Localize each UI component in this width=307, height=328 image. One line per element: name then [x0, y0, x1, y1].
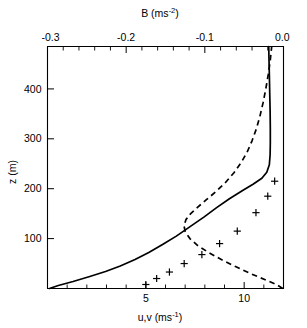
data-marker-plus	[153, 275, 160, 282]
data-marker-plus	[264, 193, 271, 200]
data-series-group	[49, 47, 282, 289]
axes-frame	[48, 47, 284, 289]
y-axis-tick-label: 400	[24, 83, 42, 95]
y-axis-title: z (m)	[6, 160, 18, 184]
data-marker-plus	[271, 178, 278, 185]
top-axis-tick-label: -0.3	[42, 31, 60, 43]
y-axis-tick-labels: 100200300400	[24, 83, 42, 245]
top-axis-tick-label: -0.1	[196, 31, 214, 43]
wind-buoyancy-profile-chart: -0.3-0.2-0.10.0 510 100200300400 B (ms-2…	[0, 0, 307, 328]
top-axis-ticks	[48, 47, 284, 54]
bottom-axis-tick-label: 5	[143, 292, 149, 304]
top-axis-tick-label: 0.0	[275, 31, 290, 43]
data-marker-plus	[166, 268, 173, 275]
data-markers-group	[142, 178, 278, 288]
data-marker-plus	[234, 228, 241, 235]
bottom-axis-ticks	[48, 282, 284, 289]
y-axis-tick-label: 100	[24, 232, 42, 244]
top-axis-tick-labels: -0.3-0.2-0.10.0	[42, 31, 290, 43]
bottom-axis-title: u,v (ms-1)	[138, 310, 183, 324]
data-marker-plus	[142, 281, 149, 288]
axes-spines	[48, 47, 284, 289]
data-marker-plus	[252, 209, 259, 216]
bottom-axis-tick-labels: 510	[143, 292, 250, 304]
data-marker-plus	[216, 240, 223, 247]
top-axis-tick-label: -0.2	[117, 31, 135, 43]
bottom-axis-tick-label: 10	[238, 292, 250, 304]
y-axis-tick-label: 300	[24, 132, 42, 144]
data-marker-plus	[181, 260, 188, 267]
top-axis-title: B (ms-2)	[141, 6, 179, 20]
y-axis-ticks	[48, 89, 55, 239]
data-marker-plus	[198, 251, 205, 258]
y-axis-tick-label: 200	[24, 182, 42, 194]
figure-container: -0.3-0.2-0.10.0 510 100200300400 B (ms-2…	[0, 0, 307, 328]
